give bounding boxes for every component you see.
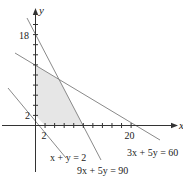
feasible-region (36, 65, 84, 126)
line-label-3x-plus-5y: 3x + 5y = 60 (127, 147, 178, 158)
tick-label-y-18: 18 (19, 30, 29, 41)
line-label-9x-plus-5y: 9x + 5y = 90 (77, 165, 128, 176)
tick-label-y-2: 2 (25, 110, 30, 121)
x-axis-label: x (178, 119, 183, 131)
line-label-x-plus-y: x + y = 2 (50, 152, 86, 163)
linear-programming-graph: x y 2 20 2 18 x + y = 2 9x + 5y = 90 3x … (0, 0, 183, 179)
tick-label-x-20: 20 (125, 130, 135, 141)
y-axis-arrow-icon (33, 8, 38, 15)
tick-label-x-2: 2 (42, 130, 47, 141)
y-axis-label: y (38, 4, 44, 16)
x-axis-arrow-icon (171, 123, 178, 128)
